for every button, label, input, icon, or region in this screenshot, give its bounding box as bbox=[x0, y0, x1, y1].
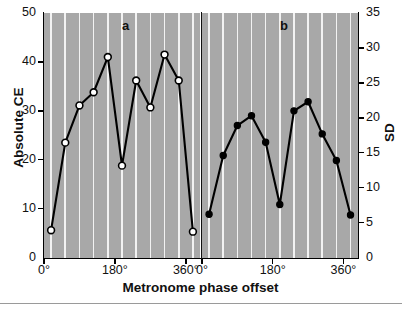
tick-left-30 bbox=[38, 110, 43, 111]
axis-frame-left bbox=[43, 12, 44, 259]
gridline-a-6 bbox=[135, 13, 137, 258]
tick-label-right-10: 10 bbox=[366, 180, 380, 194]
tick-label-x-b-0: 0° bbox=[182, 263, 222, 277]
gridline-b-8 bbox=[321, 13, 323, 258]
gridline-a-10 bbox=[192, 13, 194, 258]
chart-figure: 01020304050 05101520253035 0°180°360°0°1… bbox=[0, 0, 402, 311]
gridline-a-5 bbox=[121, 13, 123, 258]
tick-label-x-b-2: 360° bbox=[323, 263, 363, 277]
gridline-a-3 bbox=[93, 13, 95, 258]
gridline-b-10 bbox=[350, 13, 352, 258]
y-axis-left-title: Absolute CE bbox=[11, 68, 26, 188]
tick-label-right-25: 25 bbox=[366, 75, 380, 89]
tick-label-x-a-1: 180° bbox=[95, 263, 135, 277]
footer-divider bbox=[0, 303, 402, 304]
gridline-a-7 bbox=[150, 13, 152, 258]
gridline-b-4 bbox=[265, 13, 267, 258]
tick-label-x-a-0: 0° bbox=[24, 263, 64, 277]
tick-label-right-35: 35 bbox=[366, 5, 380, 19]
tick-label-left-40: 40 bbox=[2, 54, 36, 68]
gridline-a-2 bbox=[79, 13, 81, 258]
tick-right-15 bbox=[359, 152, 364, 153]
tick-label-right-5: 5 bbox=[366, 215, 373, 229]
tick-left-10 bbox=[38, 208, 43, 209]
tick-left-40 bbox=[38, 61, 43, 62]
panel-label-b: b bbox=[280, 18, 288, 33]
gridline-b-7 bbox=[307, 13, 309, 258]
y-axis-right-title: SD bbox=[382, 73, 397, 193]
tick-label-right-15: 15 bbox=[366, 145, 380, 159]
tick-label-left-0: 0 bbox=[2, 250, 36, 264]
tick-label-x-b-1: 180° bbox=[253, 263, 293, 277]
panel-divider bbox=[201, 12, 202, 259]
tick-label-right-20: 20 bbox=[366, 110, 380, 124]
gridline-b-6 bbox=[293, 13, 295, 258]
tick-right-25 bbox=[359, 82, 364, 83]
tick-label-right-0: 0 bbox=[366, 250, 373, 264]
tick-label-left-50: 50 bbox=[2, 5, 36, 19]
gridline-a-4 bbox=[107, 13, 109, 258]
panel-label-a: a bbox=[122, 18, 129, 33]
tick-right-5 bbox=[359, 222, 364, 223]
gridline-b-3 bbox=[251, 13, 253, 258]
tick-left-20 bbox=[38, 159, 43, 160]
gridline-b-1 bbox=[222, 13, 224, 258]
tick-right-30 bbox=[359, 47, 364, 48]
gridline-b-2 bbox=[237, 13, 239, 258]
gridline-a-0 bbox=[50, 13, 52, 258]
tick-right-20 bbox=[359, 117, 364, 118]
gridline-a-8 bbox=[164, 13, 166, 258]
tick-right-10 bbox=[359, 187, 364, 188]
gridline-a-9 bbox=[178, 13, 180, 258]
gridline-b-5 bbox=[279, 13, 281, 258]
tick-label-right-30: 30 bbox=[366, 40, 380, 54]
gridline-b-0 bbox=[208, 13, 210, 258]
gridline-b-9 bbox=[336, 13, 338, 258]
tick-label-left-10: 10 bbox=[2, 201, 36, 215]
gridline-a-1 bbox=[64, 13, 66, 258]
x-axis-title: Metronome phase offset bbox=[43, 280, 358, 295]
